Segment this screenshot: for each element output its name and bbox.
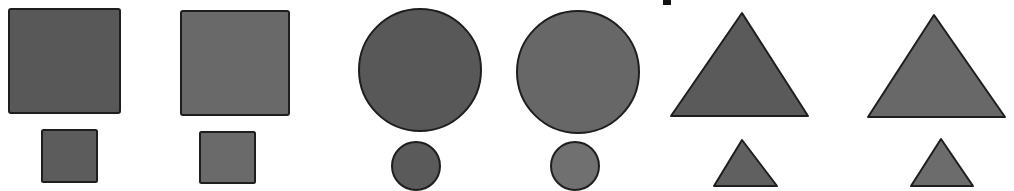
- large-circle-dark: [359, 9, 481, 131]
- cropped-top-mark: [663, 0, 671, 5]
- large-triangle-dark: [671, 13, 808, 116]
- squares-group: [9, 9, 289, 183]
- shapes-figure: [0, 0, 1014, 191]
- small-square-light: [200, 132, 255, 183]
- shapes-canvas: [0, 0, 1014, 191]
- large-square-light: [181, 11, 289, 115]
- small-square-dark: [42, 130, 97, 182]
- small-circle-dark: [392, 142, 440, 190]
- small-circle-light: [551, 142, 599, 190]
- small-triangle-dark: [714, 140, 777, 186]
- large-square-dark: [9, 9, 120, 113]
- triangles-group: [671, 13, 1005, 186]
- large-circle-light: [517, 11, 639, 133]
- small-triangle-light: [911, 139, 973, 186]
- large-triangle-light: [868, 15, 1005, 117]
- circles-group: [359, 9, 639, 190]
